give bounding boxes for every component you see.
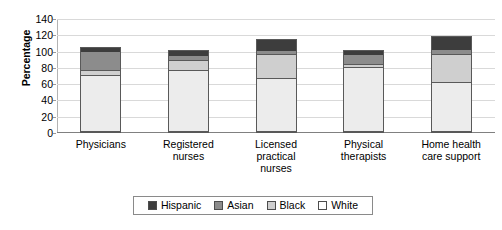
- y-axis-tick-labels: 140120100806040200: [22, 19, 53, 133]
- x-axis-category-labels: PhysiciansRegisterednursesLicensedpracti…: [57, 139, 495, 181]
- y-tick-label: 0: [23, 128, 53, 139]
- bar-segment-asian: [81, 52, 120, 71]
- y-tick-label: 140: [23, 14, 53, 25]
- stacked-bar[interactable]: [256, 39, 297, 133]
- stacked-bar[interactable]: [80, 47, 121, 133]
- bar-segment-white: [169, 71, 208, 132]
- x-category-label: Licensedpracticalnurses: [233, 139, 319, 174]
- y-tick-label: 20: [23, 112, 53, 123]
- bar-group[interactable]: [431, 36, 472, 133]
- bar-segment-asian: [344, 55, 383, 65]
- bar-segment-white: [344, 68, 383, 132]
- legend-item-asian[interactable]: Asian: [214, 200, 253, 211]
- legend-item-black[interactable]: Black: [267, 200, 306, 211]
- y-tick-mark: [53, 133, 56, 134]
- x-category-label: Physicians: [58, 139, 144, 151]
- bar-group[interactable]: [343, 50, 384, 133]
- bar-group[interactable]: [80, 47, 121, 133]
- bar-segment-white: [432, 83, 471, 132]
- y-tick-label: 120: [23, 30, 53, 41]
- y-tick-mark: [53, 117, 56, 118]
- y-tick-mark: [53, 68, 56, 69]
- legend-swatch-icon: [148, 201, 157, 210]
- legend-label: Hispanic: [161, 200, 201, 211]
- bars-layer: [57, 19, 495, 133]
- bar-segment-white: [81, 76, 120, 132]
- legend-label: White: [331, 200, 358, 211]
- y-tick-label: 60: [23, 79, 53, 90]
- y-tick-label: 40: [23, 95, 53, 106]
- chart-legend: HispanicAsianBlackWhite: [133, 196, 373, 215]
- legend-swatch-icon: [318, 201, 327, 210]
- y-tick-mark: [53, 19, 56, 20]
- legend-swatch-icon: [214, 201, 223, 210]
- bar-segment-hispanic: [432, 37, 471, 50]
- y-tick-mark: [53, 35, 56, 36]
- y-tick-mark: [53, 100, 56, 101]
- bar-group[interactable]: [168, 50, 209, 133]
- y-tick-mark: [53, 52, 56, 53]
- stacked-bar-chart: Percentage 140120100806040200 Physicians…: [0, 0, 502, 230]
- stacked-bar[interactable]: [168, 50, 209, 133]
- bar-segment-black: [257, 55, 296, 79]
- legend-label: Asian: [227, 200, 253, 211]
- legend-label: Black: [280, 200, 306, 211]
- bar-segment-black: [169, 61, 208, 71]
- y-tick-mark: [53, 84, 56, 85]
- legend-item-white[interactable]: White: [318, 200, 358, 211]
- legend-swatch-icon: [267, 201, 276, 210]
- x-category-label: Physicaltherapists: [321, 139, 407, 163]
- stacked-bar[interactable]: [343, 50, 384, 133]
- bar-segment-white: [257, 79, 296, 132]
- y-tick-label: 80: [23, 63, 53, 74]
- stacked-bar[interactable]: [431, 36, 472, 133]
- y-tick-label: 100: [23, 47, 53, 58]
- bar-group[interactable]: [256, 39, 297, 133]
- bar-segment-hispanic: [257, 40, 296, 51]
- legend-item-hispanic[interactable]: Hispanic: [148, 200, 201, 211]
- bar-segment-black: [432, 55, 471, 83]
- x-category-label: Registerednurses: [145, 139, 231, 163]
- x-category-label: Home healthcare support: [408, 139, 494, 163]
